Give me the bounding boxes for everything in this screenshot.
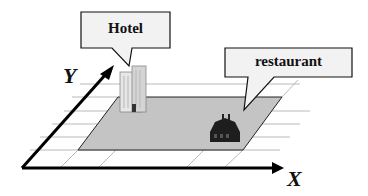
x-axis-label: X	[287, 166, 302, 192]
diagram-svg	[0, 0, 368, 196]
restaurant-label: restaurant	[225, 53, 352, 70]
x-axis-arrowhead	[272, 162, 284, 174]
hotel-label: Hotel	[81, 20, 170, 37]
diagram-canvas: Hotel restaurant Y X	[0, 0, 368, 196]
y-axis-label: Y	[63, 63, 76, 89]
shaded-region	[78, 97, 282, 150]
hotel-building-icon	[120, 66, 146, 112]
